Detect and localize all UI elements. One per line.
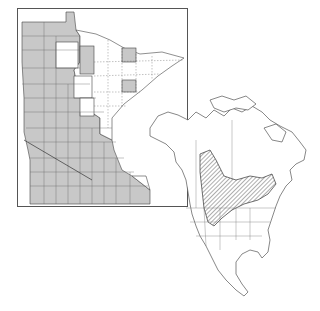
minnesota-map bbox=[22, 12, 184, 204]
distribution-map bbox=[0, 0, 320, 311]
